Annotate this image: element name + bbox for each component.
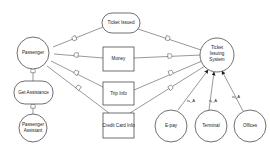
edge-passenger-money <box>54 54 103 58</box>
flow-symbol-icon <box>74 53 79 58</box>
flow-symbol-icon <box>168 85 174 91</box>
edge-passenger-ticket-issued <box>53 27 103 47</box>
node-money[interactable]: Money <box>103 47 134 71</box>
edge-e-pay-system <box>178 70 208 110</box>
node-label-line: Issuing <box>210 51 225 56</box>
node-label-line: Ticket <box>211 45 224 50</box>
flow-symbol-icon <box>165 36 170 41</box>
node-label: Credit Card Info <box>102 123 135 128</box>
edge-label-is-a-e-pay: is_A <box>187 98 195 103</box>
flow-symbol-icon <box>71 36 77 42</box>
flow-symbol-icon <box>168 54 172 59</box>
node-passenger[interactable]: Passenger <box>17 37 49 69</box>
edge-offices-system <box>222 71 243 111</box>
node-passenger-assistant[interactable]: Passenger Assistant <box>19 114 47 142</box>
node-e-pay[interactable]: E-pay <box>155 110 187 142</box>
edge-label-is-a-terminal: is_A <box>209 98 217 103</box>
node-label-line: Passenger <box>22 122 44 127</box>
edge-credit-card-info-system <box>130 66 205 113</box>
node-label: Money <box>112 56 126 61</box>
node-label: Ticket Issued <box>108 20 135 25</box>
node-label-line: Assistant <box>24 128 43 133</box>
node-label: Trip Info <box>110 91 127 96</box>
node-trip-info[interactable]: Trip Info <box>103 82 134 105</box>
node-label: E-pay <box>165 123 178 128</box>
node-ticket-issued[interactable]: Ticket Issued <box>102 13 140 33</box>
node-label: Passenger <box>22 50 44 55</box>
node-label: Offices <box>243 123 258 128</box>
node-terminal[interactable]: Terminal <box>195 110 227 142</box>
node-ticket-issuing-system[interactable]: Ticket Issuing System <box>200 38 234 72</box>
edge-label-is-a-offices: is_A <box>232 94 240 99</box>
node-label-line: System <box>209 57 224 62</box>
edges-is-a <box>178 70 243 111</box>
flow-symbol-icon <box>31 104 35 108</box>
flow-symbol-icon <box>168 70 174 76</box>
node-label: Get Assistance <box>18 90 49 95</box>
context-diagram: Passenger Ticket Issued Money Trip Info … <box>0 0 270 151</box>
edge-terminal-system <box>209 72 214 110</box>
node-credit-card-info[interactable]: Credit Card Info <box>102 113 135 138</box>
edge-trip-info-system <box>134 61 202 90</box>
node-label: Terminal <box>202 123 219 128</box>
node-get-assistance[interactable]: Get Assistance <box>14 81 53 104</box>
flow-symbol-icon <box>75 84 81 90</box>
edge-money-system <box>134 55 201 58</box>
node-offices[interactable]: Offices <box>234 110 266 142</box>
